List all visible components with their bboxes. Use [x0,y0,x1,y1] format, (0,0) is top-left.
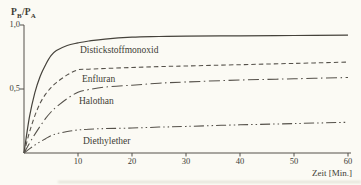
series-label-halothan: Halothan [79,96,114,106]
curve-diethylether [24,122,348,153]
y-axis-title: PB/PA [11,7,36,20]
x-tick-label: 40 [229,156,251,166]
x-tick-label: 60 [337,156,359,166]
x-tick-label: 20 [121,156,143,166]
curve-distickstoffmonoxid [24,35,348,153]
y-tick-label-1.0: 1,0 [0,20,20,29]
curve-halothan [24,78,348,154]
x-tick-label: 50 [283,156,305,166]
y-tick-label-0.5: 0,5 [0,84,20,93]
series-label-distickstoffmonoxid: Distickstoffmonoxid [80,45,158,55]
series-label-diethylether: Diethylether [83,136,130,146]
x-tick-label: 30 [175,156,197,166]
y-axis-title-part: /P [22,7,31,17]
y-axis-title-sub: A [31,12,36,20]
series-label-enfluran: Enfluran [82,74,115,84]
anesthetic-uptake-chart: PB/PA 1,0 0,5 Distickstoffmonoxid Enflur… [0,0,361,185]
x-tick-label: 10 [67,156,89,166]
x-axis-title: Zeit [Min.] [312,168,352,178]
curve-enfluran [24,62,348,153]
scan-artifact [58,181,361,183]
